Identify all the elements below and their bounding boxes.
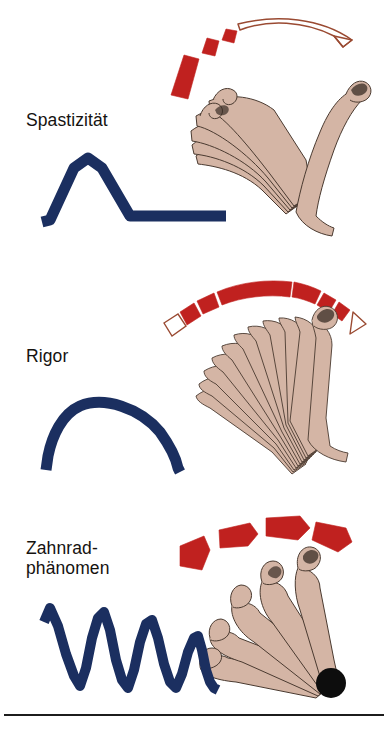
waveform-trace [42,158,226,222]
arc-hollow-segment [238,19,352,47]
arc-solid-segment [202,38,219,56]
panel-rigor: Rigor [0,248,388,490]
waveform-trace [44,608,218,690]
panel-cogwheel: Zahnrad- phänomen [0,490,388,733]
bottom-divider [4,714,384,716]
arc-solid-segment [219,523,258,548]
panel-spasticity: Spastizität [0,0,388,248]
arc-solid-segment [266,516,310,540]
arc-solid-segment [180,536,210,570]
spasticity-waveform [42,158,226,222]
rigor-graphics [0,248,388,490]
arc-solid-segment [292,282,321,304]
arc-solid-segment [171,55,199,99]
cogwheel-resistance-arc [180,516,352,570]
waveform-trace [46,402,180,472]
arc-solid-segment [312,522,352,552]
arc-arrowhead-icon [350,312,366,334]
cogwheel-waveform [44,608,218,690]
spasticity-graphics [0,0,388,248]
spasticity-resistance-arc [171,19,352,99]
rigor-arm-fan [196,306,348,474]
rigor-waveform [46,402,180,472]
arc-solid-segment [217,281,292,305]
arc-solid-segment [197,293,219,314]
cogwheel-arm-fan [200,547,346,698]
muscle-tone-figure: Spastizität [0,0,388,733]
cogwheel-graphics [0,490,388,733]
arc-solid-segment [222,29,237,43]
pivot-dot-icon [316,668,346,698]
